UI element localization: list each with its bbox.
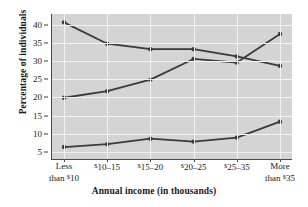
dollar-sign: $ [138,162,141,169]
y-axis-tick-labels: 510152025303540 [18,14,48,159]
dollar-sign: $ [283,173,286,180]
y-tick-mark [44,24,48,25]
x-tick-mark [237,159,238,162]
x-tick-label: $25–35 [224,161,250,173]
dollar-sign: $ [94,162,97,169]
x-axis-line [51,159,292,160]
y-tick-mark [44,43,48,44]
y-tick-label: 15 [33,111,42,121]
chart-figure: Percentage of individuals 51015202530354… [0,0,308,207]
x-tick-mark [150,159,151,162]
series-line [64,22,280,66]
y-tick-mark [44,61,48,62]
y-tick-label: 40 [33,20,42,30]
x-tick-mark [64,159,65,162]
horizontal-gridline [52,152,292,153]
y-tick-label: 25 [33,74,42,84]
dollar-sign: $ [224,162,227,169]
x-tick-label: $15–20 [138,161,164,173]
horizontal-gridline [52,79,292,80]
x-tick-mark [107,159,108,162]
dollar-sign: $ [181,162,184,169]
y-tick-label: 20 [33,92,42,102]
x-axis-title: Annual income (in thousands) [0,186,308,196]
vertical-gridline [194,14,195,159]
horizontal-gridline [52,134,292,135]
horizontal-gridline [52,116,292,117]
vertical-gridline [64,14,65,159]
y-tick-label: 30 [33,56,42,66]
horizontal-gridline [52,25,292,26]
y-tick-label: 5 [38,147,43,157]
plot-area [52,14,292,159]
y-tick-label: 35 [33,38,42,48]
series-container [52,14,292,159]
x-tick-label: Lessthan $10 [49,161,79,183]
x-tick-label: $20–25 [181,161,207,173]
vertical-gridline [107,14,108,159]
y-tick-mark [44,115,48,116]
vertical-gridline [280,14,281,159]
x-tick-label: $10–15 [94,161,120,173]
y-tick-mark [44,79,48,80]
y-tick-label: 10 [33,129,42,139]
vertical-gridline [237,14,238,159]
x-tick-mark [280,159,281,162]
dollar-sign: $ [67,173,70,180]
horizontal-gridline [52,61,292,62]
y-tick-mark [44,133,48,134]
horizontal-gridline [52,97,292,98]
x-tick-mark [194,159,195,162]
y-tick-mark [44,97,48,98]
vertical-gridline [150,14,151,159]
y-tick-mark [44,151,48,152]
x-tick-label: Morethan $35 [265,161,295,183]
horizontal-gridline [52,43,292,44]
